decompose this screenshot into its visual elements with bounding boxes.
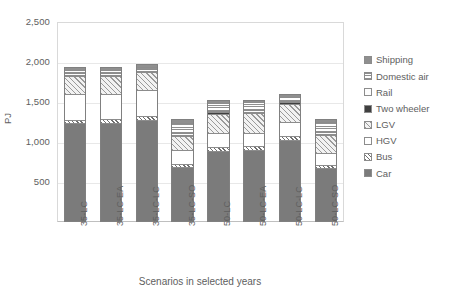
x-tick-label: 35-LC-LC (151, 186, 161, 226)
bar-segment-hgv[interactable] (101, 95, 121, 120)
legend-swatch-icon (364, 72, 372, 80)
legend-item-bus[interactable]: Bus (364, 149, 455, 165)
legend-item-car[interactable]: Car (364, 165, 455, 181)
bar-slot (201, 22, 237, 222)
x-tick-label: 35-LC (79, 201, 89, 226)
stacked-bar-chart: 5001,0001,5002,0002,500 PJ 35-LC35-LC-EA… (0, 0, 455, 297)
legend-swatch-icon (364, 169, 372, 177)
legend-label: Rail (376, 88, 392, 98)
bar-segment-lgv[interactable] (172, 137, 192, 151)
legend-label: Car (376, 169, 391, 179)
legend-swatch-icon (364, 153, 372, 161)
legend-item-rail[interactable]: Rail (364, 84, 455, 100)
legend-label: LGV (376, 120, 395, 130)
bar-segment-lgv[interactable] (316, 136, 336, 154)
bar-segment-hgv[interactable] (208, 134, 228, 148)
chart-legend: ShippingDomestic airRailTwo wheelerLGVHG… (364, 52, 455, 182)
bar-segment-hgv[interactable] (137, 91, 157, 117)
bar-segment-hgv[interactable] (280, 123, 300, 137)
y-tick-label: 1,500 (6, 96, 50, 107)
bar-segment-domestic-air[interactable] (172, 124, 192, 135)
y-tick-label: 1,000 (6, 136, 50, 147)
legend-label: Bus (376, 152, 392, 162)
legend-swatch-icon (364, 56, 372, 64)
bar-segment-lgv[interactable] (65, 77, 85, 95)
legend-label: Domestic air (376, 72, 429, 82)
y-tick-label: 2,500 (6, 16, 50, 27)
x-tick-label: 50-LC (222, 201, 232, 226)
x-axis-title: Scenarios in selected years (0, 276, 400, 287)
legend-swatch-icon (364, 88, 372, 96)
bar-segment-lgv[interactable] (208, 115, 228, 135)
bar-segment-hgv[interactable] (316, 154, 336, 166)
stacked-bar[interactable] (64, 67, 86, 222)
x-tick-label: 50-LC-LC (294, 186, 304, 226)
legend-item-hgv[interactable]: HGV (364, 133, 455, 149)
legend-item-two-wheeler[interactable]: Two wheeler (364, 101, 455, 117)
legend-swatch-icon (364, 121, 372, 129)
bar-segment-lgv[interactable] (101, 77, 121, 95)
legend-swatch-icon (364, 105, 372, 113)
legend-item-domestic-air[interactable]: Domestic air (364, 68, 455, 84)
bar-segment-domestic-air[interactable] (316, 123, 336, 133)
bar-segment-domestic-air[interactable] (244, 103, 264, 110)
bar-segment-hgv[interactable] (65, 95, 85, 120)
y-tick-label: 2,000 (6, 56, 50, 67)
bar-segment-lgv[interactable] (137, 73, 157, 91)
legend-item-lgv[interactable]: LGV (364, 117, 455, 133)
legend-label: Shipping (376, 55, 413, 65)
legend-swatch-icon (364, 137, 372, 145)
bar-slot (57, 22, 93, 222)
bar-segment-hgv[interactable] (244, 134, 264, 148)
bar-segment-lgv[interactable] (244, 114, 264, 134)
legend-item-shipping[interactable]: Shipping (364, 52, 455, 68)
bar-segment-hgv[interactable] (172, 151, 192, 164)
bar-segment-domestic-air[interactable] (208, 104, 228, 112)
legend-label: HGV (376, 136, 397, 146)
legend-label: Two wheeler (376, 104, 429, 114)
x-tick-label: 35-LC-SO (187, 185, 197, 226)
x-axis-ticks: 35-LC35-LC-EA35-LC-LC35-LC-SO50-LC50-LC-… (57, 224, 344, 270)
x-tick-label: 35-LC-EA (115, 186, 125, 226)
y-tick-label: 500 (6, 176, 50, 187)
bar-segment-lgv[interactable] (280, 105, 300, 124)
x-tick-label: 50-LC-SO (330, 185, 340, 226)
x-tick-label: 50-LC-EA (258, 186, 268, 226)
y-axis-title: PJ (2, 113, 13, 124)
